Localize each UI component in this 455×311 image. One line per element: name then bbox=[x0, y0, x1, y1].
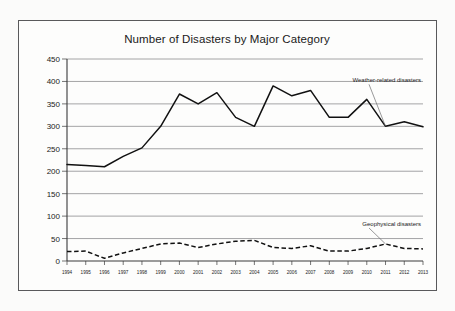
x-axis-tick-labels: 1994199519961997199819992000200120022003… bbox=[62, 270, 429, 275]
page-title: Number of Disasters by Major Category bbox=[124, 33, 330, 45]
x-axis-tick-label: 2013 bbox=[418, 270, 429, 275]
y-axis-tick-label: 0 bbox=[56, 257, 61, 266]
y-axis-tick-label: 250 bbox=[47, 145, 61, 154]
y-axis-tick-label: 300 bbox=[47, 122, 61, 131]
chart-frame: Number of Disasters by Major Category 05… bbox=[18, 20, 437, 291]
x-axis-tick-label: 2000 bbox=[174, 270, 185, 275]
figure-canvas: Number of Disasters by Major Category 05… bbox=[0, 0, 455, 311]
x-axis-tick-label: 1998 bbox=[137, 270, 148, 275]
y-axis-tick-label: 400 bbox=[47, 77, 61, 86]
y-axis-tick-labels: 050100150200250300350400450 bbox=[47, 55, 61, 266]
x-axis-tick-label: 2012 bbox=[399, 270, 410, 275]
series-line-geophysical bbox=[67, 240, 423, 258]
x-axis-tick-label: 1999 bbox=[156, 270, 167, 275]
x-axis-tick-label: 2009 bbox=[343, 270, 354, 275]
x-axis-tick-label: 2001 bbox=[193, 270, 204, 275]
x-axis-tick-label: 2006 bbox=[287, 270, 298, 275]
x-axis-tick-label: 2004 bbox=[249, 270, 260, 275]
x-axis-tick-label: 2005 bbox=[268, 270, 279, 275]
disasters-line-chart: Number of Disasters by Major Category 05… bbox=[19, 21, 435, 289]
y-axis-tick-label: 150 bbox=[47, 190, 61, 199]
annotation-leader-line bbox=[369, 228, 386, 244]
x-axis-tick-label: 2011 bbox=[381, 270, 391, 275]
series-annotation-label: Weather-related disasters bbox=[352, 77, 421, 83]
y-axis-tick-label: 100 bbox=[47, 212, 61, 221]
data-series-group bbox=[67, 86, 423, 258]
x-axis-tick-label: 2008 bbox=[324, 270, 335, 275]
x-axis-tick-label: 1995 bbox=[81, 270, 92, 275]
x-axis-tick-label: 1996 bbox=[99, 270, 110, 275]
chart-title-group: Number of Disasters by Major Category bbox=[124, 33, 330, 45]
y-axis-tick-label: 50 bbox=[51, 235, 60, 244]
x-axis-tick-label: 2007 bbox=[305, 270, 316, 275]
x-axis-tick-label: 2002 bbox=[212, 270, 223, 275]
y-axis-tick-label: 350 bbox=[47, 100, 61, 109]
y-axis-tick-label: 450 bbox=[47, 55, 61, 64]
x-axis-tick-label: 2003 bbox=[231, 270, 242, 275]
y-axis-tick-label: 200 bbox=[47, 167, 61, 176]
x-axis-tick-label: 1997 bbox=[118, 270, 129, 275]
axes-group bbox=[67, 59, 423, 265]
x-axis-tick-label: 1994 bbox=[62, 270, 73, 275]
series-annotation-label: Geophysical disasters bbox=[362, 221, 421, 227]
x-axis-tick-label: 2010 bbox=[362, 270, 373, 275]
